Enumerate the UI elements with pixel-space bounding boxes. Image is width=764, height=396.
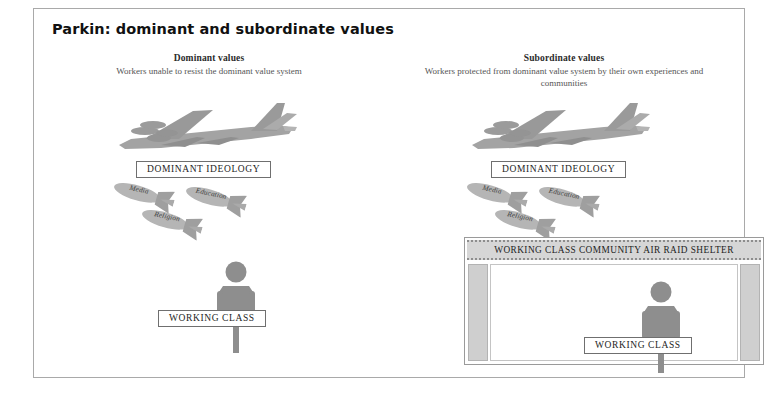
page-title: Parkin: dominant and subordinate values [52, 21, 394, 37]
column-dominant-values: Dominant values Workers unable to resist… [39, 49, 379, 369]
bomb-education-icon: Education [534, 179, 602, 219]
working-class-label-subordinate: WORKING CLASS [584, 337, 692, 354]
column-subordinate-values: Subordinate values Workers protected fro… [394, 49, 734, 369]
column-subtitle-subordinate: Workers protected from dominant value sy… [394, 66, 734, 89]
shelter-pillar-left [468, 264, 488, 361]
column-subtitle-dominant: Workers unable to resist the dominant va… [39, 66, 379, 78]
dominant-ideology-label: DOMINANT IDEOLOGY [136, 161, 271, 178]
shelter-banner: WORKING CLASS COMMUNITY AIR RAID SHELTER [467, 240, 761, 260]
bomber-aircraft-icon [454, 101, 654, 163]
worker-figure-icon [205, 261, 267, 353]
column-heading-subordinate: Subordinate values [394, 53, 734, 63]
shelter-interior: WORKING CLASS [490, 264, 738, 361]
worker-figure-icon [630, 281, 692, 373]
bomb-cluster-dominant: Media Religion Education [111, 181, 301, 243]
air-raid-shelter: WORKING CLASS COMMUNITY AIR RAID SHELTER [464, 237, 764, 365]
shelter-banner-label: WORKING CLASS COMMUNITY AIR RAID SHELTER [494, 245, 734, 255]
bomb-education-icon: Education [181, 179, 249, 219]
shelter-pillar-right [740, 264, 760, 361]
working-class-label-dominant: WORKING CLASS [158, 310, 266, 327]
dominant-ideology-label: DOMINANT IDEOLOGY [491, 161, 626, 178]
column-heading-dominant: Dominant values [39, 53, 379, 63]
diagram-frame: Parkin: dominant and subordinate values … [33, 8, 745, 378]
bomb-cluster-subordinate: Media Religion Education [464, 181, 654, 243]
bomber-aircraft-icon [101, 101, 301, 163]
